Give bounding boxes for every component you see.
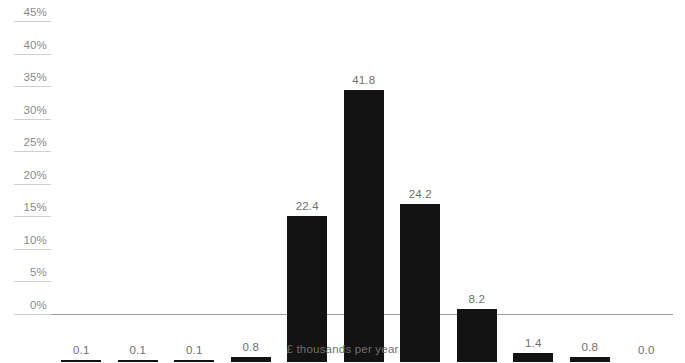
bar-group[interactable]: 24.212	[392, 49, 449, 363]
y-tick-label: 45%	[23, 6, 47, 18]
y-gridline	[14, 216, 51, 217]
y-gridline	[14, 54, 51, 55]
bar-group[interactable]: 22.410	[279, 49, 336, 363]
bar[interactable]	[118, 360, 158, 363]
y-gridline	[14, 184, 51, 185]
bar[interactable]	[174, 360, 214, 363]
bar[interactable]	[400, 204, 440, 362]
bar[interactable]	[231, 357, 271, 362]
y-gridline	[14, 314, 51, 315]
bar-value-label: 24.2	[409, 188, 432, 200]
x-axis-title: £ thousands per year	[0, 343, 685, 355]
bar-group[interactable]: 0.016	[618, 49, 675, 363]
bar-chart: 0%5%10%15%20%25%30%35%40%45% 0.160.170.1…	[0, 0, 685, 363]
bar[interactable]	[61, 360, 101, 363]
y-tick-label: 25%	[23, 136, 47, 148]
y-gridline	[14, 281, 51, 282]
y-gridline	[14, 151, 51, 152]
bar[interactable]	[344, 90, 384, 362]
bar-group[interactable]: 0.89	[223, 49, 280, 363]
bar-group[interactable]: 41.811	[336, 49, 393, 363]
y-tick-label: 15%	[23, 201, 47, 213]
y-gridline	[14, 86, 51, 87]
y-tick-label: 20%	[23, 169, 47, 181]
y-tick-label: 5%	[30, 266, 47, 278]
bar-group[interactable]: 0.815	[562, 49, 619, 363]
bar[interactable]	[287, 216, 327, 362]
bar-group[interactable]: 8.213	[449, 49, 506, 363]
y-axis: 0%5%10%15%20%25%30%35%40%45%	[0, 0, 51, 363]
bar-group[interactable]: 0.16	[53, 49, 110, 363]
y-gridline	[14, 21, 51, 22]
y-tick-label: 10%	[23, 234, 47, 246]
bar-group[interactable]: 1.414	[505, 49, 562, 363]
plot-area: 0.160.170.180.8922.41041.81124.2128.2131…	[51, 0, 673, 363]
bar-group[interactable]: 0.18	[166, 49, 223, 363]
bar-value-label: 41.8	[352, 74, 375, 86]
y-tick-label: 35%	[23, 71, 47, 83]
bar-value-label: 8.2	[468, 293, 485, 305]
y-gridline	[14, 249, 51, 250]
bar-value-label: 22.4	[296, 200, 319, 212]
bar[interactable]	[570, 357, 610, 362]
y-tick-label: 40%	[23, 39, 47, 51]
y-tick-label: 30%	[23, 104, 47, 116]
y-tick-label: 0%	[30, 299, 47, 311]
bar-group[interactable]: 0.17	[110, 49, 167, 363]
y-gridline	[14, 119, 51, 120]
